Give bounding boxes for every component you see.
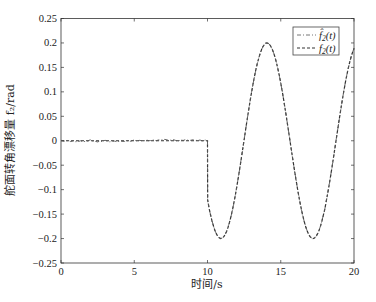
y-tick-label: 0 (52, 135, 57, 146)
y-tick-label: −0.25 (33, 258, 57, 269)
y-tick-label: −0.2 (38, 233, 57, 244)
y-tick-label: 0.15 (39, 62, 57, 73)
x-tick-label: 15 (276, 266, 287, 277)
x-axis-label: 时间/s (191, 278, 223, 291)
x-tick-label: 10 (202, 266, 213, 277)
y-tick-label: 0.1 (44, 86, 57, 97)
y-tick-label: 0.25 (39, 13, 57, 24)
y-axis-label: 舵面转角漂移量 f₂/rad (3, 84, 17, 196)
x-tick-label: 5 (132, 266, 137, 277)
legend-label-estimate: f̂2(t) (319, 28, 336, 42)
series-layer (61, 43, 354, 239)
legend: f̂2(t) f2(t) (293, 27, 339, 56)
line-chart: 05101520 0.250.20.150.10.050−0.05−0.1−0.… (0, 0, 376, 302)
y-tick-label: −0.15 (33, 209, 57, 220)
y-tick-label: 0.2 (44, 37, 57, 48)
x-tick-label: 20 (349, 266, 360, 277)
y-tick-label: −0.1 (38, 184, 57, 195)
series-line-estimate (61, 43, 354, 239)
y-tick-label: −0.05 (33, 160, 57, 171)
x-tick-label: 0 (58, 266, 63, 277)
y-tick-label: 0.05 (39, 111, 57, 122)
